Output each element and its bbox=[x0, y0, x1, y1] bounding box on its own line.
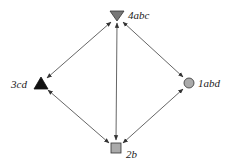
node-label-3cd: 3cd bbox=[10, 78, 27, 90]
node-2b[interactable]: 2b bbox=[111, 143, 138, 160]
square-icon bbox=[111, 143, 121, 153]
circle-icon bbox=[184, 78, 194, 88]
edge-4abc-1abd bbox=[123, 22, 183, 77]
edge-3cd-2b bbox=[48, 90, 109, 143]
edge-1abd-2b bbox=[123, 89, 183, 143]
node-label-1abd: 1abd bbox=[198, 77, 221, 89]
triangle-up-icon bbox=[34, 77, 48, 89]
node-3cd[interactable]: 3cd bbox=[10, 77, 48, 90]
node-label-4abc: 4abc bbox=[128, 9, 150, 21]
edges bbox=[47, 22, 183, 143]
node-1abd[interactable]: 1abd bbox=[184, 77, 221, 89]
node-label-2b: 2b bbox=[126, 148, 138, 160]
triangle-down-icon bbox=[110, 11, 124, 21]
node-4abc[interactable]: 4abc bbox=[110, 9, 150, 21]
edge-4abc-3cd bbox=[47, 22, 111, 78]
graph-diagram: 4abc 3cd 1abd 2b bbox=[0, 0, 232, 167]
edge-4abc-2b bbox=[116, 23, 117, 140]
